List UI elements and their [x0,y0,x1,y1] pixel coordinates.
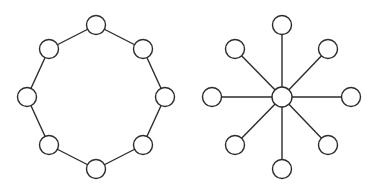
ring-node [18,88,37,107]
network-topology-diagram [0,0,381,191]
ring-topology [18,16,175,179]
ring-node [134,136,153,155]
ring-node [40,40,59,59]
star-node [273,160,292,179]
ring-node [156,88,175,107]
ring-node [87,16,106,35]
star-node [319,40,338,59]
star-node [203,88,222,107]
star-node [273,16,292,35]
ring-node [87,160,106,179]
star-topology [203,16,361,179]
star-node [226,40,245,59]
star-hub-node [272,87,292,107]
star-node [319,136,338,155]
ring-node [134,40,153,59]
ring-node [40,136,59,155]
star-node [226,136,245,155]
star-node [342,88,361,107]
